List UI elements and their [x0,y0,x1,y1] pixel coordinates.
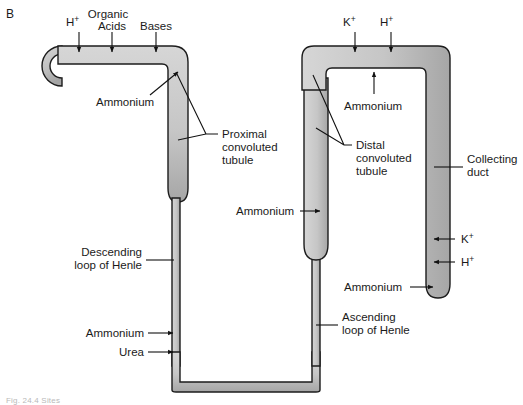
nephron-secretion-diagram: B H+ Organic Acids Bases Ammonium Proxim… [0,0,523,405]
label-proximal-convoluted-tubule-line1: Proximal [222,128,267,140]
label-pct-bases: Bases [140,20,172,32]
label-pct-hydrogen: H+ [66,14,79,28]
proximal-convoluted-tubule [58,46,188,202]
label-ascending-ammonium: Ammonium [236,205,294,217]
label-ascending-loop-of-henle-line1: Ascending [342,311,396,323]
label-descending-loop-of-henle-line1: Descending [81,246,142,258]
label-collecting-duct-potassium: K+ [461,231,474,245]
distal-convoluted-tubule [304,78,328,260]
label-descending-urea: Urea [119,346,145,358]
loop-of-henle-hairpin [172,352,320,392]
label-collecting-duct-line2: duct [467,166,490,178]
label-distal-convoluted-tubule-line2: convoluted [356,152,412,164]
label-pct-ammonium: Ammonium [96,96,154,108]
nephron-svg: B H+ Organic Acids Bases Ammonium Proxim… [0,0,523,405]
panel-label: B [6,7,14,21]
label-dct-potassium: K+ [343,14,356,28]
label-proximal-convoluted-tubule-line2: convoluted [222,141,278,153]
label-pct-organic-top: Organic [88,8,129,20]
ascending-loop-of-henle [312,252,320,366]
label-distal-convoluted-tubule-line3: tubule [356,165,387,177]
label-pct-acids: Acids [98,20,126,32]
figure-caption: Fig. 24.4 Sites [6,396,60,405]
label-collecting-duct-ammonium: Ammonium [344,281,402,293]
descending-loop-of-henle [172,198,180,366]
label-collecting-duct-hydrogen: H+ [461,254,474,268]
label-collecting-duct-line1: Collecting [467,153,518,165]
label-dct-ammonium: Ammonium [344,100,402,112]
label-proximal-convoluted-tubule-line3: tubule [222,154,253,166]
label-descending-loop-of-henle-line2: loop of Henle [74,259,142,271]
label-descending-ammonium: Ammonium [86,327,144,339]
label-ascending-loop-of-henle-line2: loop of Henle [342,324,410,336]
label-distal-convoluted-tubule-line1: Distal [356,139,385,151]
label-dct-hydrogen: H+ [380,14,393,28]
